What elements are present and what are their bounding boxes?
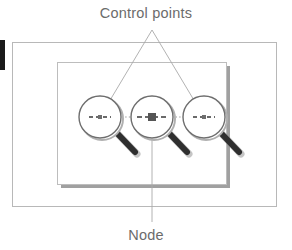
- node-label: Node: [128, 227, 163, 243]
- left-control-handle-square[interactable]: [98, 115, 102, 119]
- control-points-label: Control points: [100, 5, 192, 21]
- control-points-diagram: Control points Node: [0, 0, 292, 250]
- node-square[interactable]: [148, 113, 156, 121]
- right-control-handle-square[interactable]: [202, 115, 206, 119]
- left-edge-marker: [0, 40, 5, 70]
- diagram-canvas: Control points Node: [0, 0, 292, 250]
